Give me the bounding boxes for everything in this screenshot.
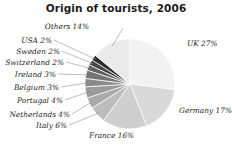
pie-slices-group — [85, 39, 175, 129]
slice-label-italy: Italy 6% — [36, 122, 67, 129]
pie-slice-uk[interactable] — [130, 39, 175, 90]
slice-label-uk: UK 27% — [187, 40, 218, 47]
pie-chart-figure: Origin of tourists, 2006 UK 27%Germany 1… — [0, 0, 232, 145]
slice-label-belgium: Belgium 3% — [14, 84, 59, 91]
leader-line-netherlands — [72, 102, 92, 114]
slice-label-france: France 16% — [89, 132, 134, 139]
slice-label-sweden: Sweden 2% — [16, 48, 60, 55]
leader-line-switzerland — [66, 62, 91, 69]
slice-label-portugal: Portugal 4% — [17, 97, 63, 104]
leader-line-portugal — [65, 92, 89, 100]
slice-label-others: Others 14% — [45, 23, 89, 30]
leader-line-belgium — [61, 83, 88, 87]
slice-label-germany: Germany 17% — [179, 107, 232, 114]
slice-label-ireland: Ireland 3% — [15, 71, 56, 78]
slice-label-switzerland: Switzerland 2% — [5, 59, 64, 66]
slice-label-usa: USA 2% — [21, 37, 52, 44]
leader-line-ireland — [58, 74, 89, 75]
leader-line-italy — [69, 113, 99, 125]
slice-label-netherlands: Netherlands 4% — [9, 111, 70, 118]
